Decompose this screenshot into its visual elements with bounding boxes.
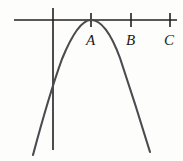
point-label-a: A xyxy=(86,33,95,48)
point-label-c: C xyxy=(164,33,174,48)
parabola-figure: A B C xyxy=(0,0,183,161)
point-label-b: B xyxy=(126,33,135,48)
figure-canvas xyxy=(0,0,183,161)
